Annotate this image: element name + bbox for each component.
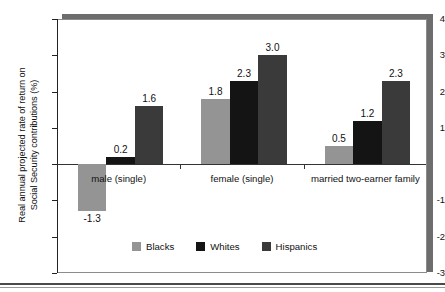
legend-item-hispanics: Hispanics (262, 241, 318, 252)
y-axis-title-line-2: Social Security contributions (%) (29, 25, 41, 265)
zero-baseline (57, 164, 426, 165)
y-axis-tick-label-3: 3 (399, 49, 445, 60)
legend-swatch-whites (196, 242, 205, 251)
y-axis-tick-label-neg1: -1 (399, 194, 445, 205)
bar-hispanics-2 (382, 81, 411, 164)
bar-hispanics-0 (135, 106, 164, 164)
y-axis-spine (57, 19, 58, 273)
legend-item-blacks: Blacks (132, 241, 174, 252)
bar-value-label-hispanics-2: 2.3 (376, 68, 417, 79)
bar-blacks-0 (78, 164, 107, 211)
y-axis-title: Real annual projected rate of return on … (17, 25, 47, 265)
legend-swatch-hispanics (262, 242, 271, 251)
bar-hispanics-1 (258, 55, 287, 164)
chart-legend: Blacks Whites Hispanics (132, 241, 317, 252)
x-axis-category-label-2: married two-earner family (304, 173, 427, 184)
legend-swatch-blacks (132, 242, 141, 251)
x-axis-group-tick (180, 164, 181, 169)
chart-figure: Real annual projected rate of return on … (0, 0, 445, 292)
y-axis-tick-neg1 (52, 200, 57, 201)
y-axis-tick-label-neg2: -2 (399, 231, 445, 242)
y-axis-tick-neg2 (52, 237, 57, 238)
y-axis-tick-1 (52, 128, 57, 129)
y-axis-title-line-1: Real annual projected rate of return on (17, 25, 29, 265)
y-axis-tick-4 (52, 19, 57, 20)
page-separator-rule-secondary (0, 287, 445, 288)
y-axis-tick-neg3 (52, 273, 57, 274)
y-axis-tick-label-4: 4 (399, 13, 445, 24)
x-axis-category-label-1: female (single) (180, 173, 303, 184)
x-axis-group-tick (304, 164, 305, 169)
bar-value-label-hispanics-1: 3.0 (252, 42, 293, 53)
legend-item-whites: Whites (196, 241, 239, 252)
bar-whites-2 (353, 121, 382, 165)
legend-label-hispanics: Hispanics (276, 241, 318, 252)
bar-whites-1 (230, 81, 259, 164)
bar-blacks-2 (325, 146, 354, 164)
bar-blacks-1 (201, 99, 230, 164)
legend-label-whites: Whites (210, 241, 239, 252)
bar-value-label-hispanics-0: 1.6 (129, 93, 170, 104)
y-axis-tick-3 (52, 55, 57, 56)
legend-label-blacks: Blacks (146, 241, 174, 252)
page-separator-rule (0, 283, 445, 285)
x-axis-category-label-0: male (single) (57, 173, 180, 184)
bar-whites-0 (106, 157, 135, 164)
y-axis-tick-label-neg3: -3 (399, 267, 445, 278)
y-axis-tick-2 (52, 92, 57, 93)
bar-value-label-blacks-0: -1.3 (72, 213, 113, 224)
